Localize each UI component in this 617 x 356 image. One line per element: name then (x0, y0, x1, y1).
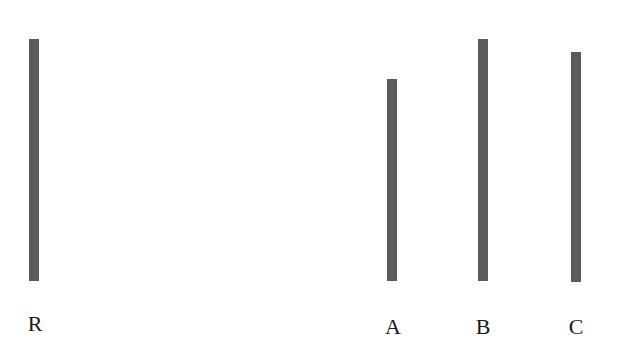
option-line-a (387, 79, 397, 281)
option-label-c: C (561, 316, 591, 338)
option-line-b (478, 39, 488, 281)
reference-label: R (20, 313, 50, 335)
option-label-a: A (378, 316, 408, 338)
option-line-c (571, 52, 581, 282)
reference-line (29, 39, 39, 281)
option-label-b: B (468, 316, 498, 338)
